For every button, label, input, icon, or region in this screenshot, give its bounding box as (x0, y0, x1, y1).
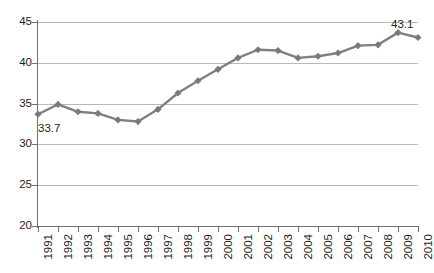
x-tick-label-2010: 2010 (423, 234, 434, 260)
x-tick-label-1994: 1994 (103, 234, 115, 260)
plot-area (38, 22, 418, 226)
x-tick-label-1992: 1992 (63, 234, 75, 260)
x-tick-label-2004: 2004 (303, 234, 315, 260)
x-tick-mark (358, 227, 359, 232)
x-tick-label-2008: 2008 (383, 234, 395, 260)
y-tick-label: 40 (0, 57, 32, 69)
x-tick-mark (298, 227, 299, 232)
y-tick-label: 25 (0, 179, 32, 191)
y-axis: 202530354045 (0, 0, 36, 273)
x-tick-mark (198, 227, 199, 232)
x-tick-label-2001: 2001 (243, 234, 255, 260)
x-tick-label-2005: 2005 (323, 234, 335, 260)
y-tick-label: 20 (0, 220, 32, 232)
x-tick-mark (118, 227, 119, 232)
x-tick-label-1998: 1998 (183, 234, 195, 260)
x-tick-label-1993: 1993 (83, 234, 95, 260)
x-tick-mark (58, 227, 59, 232)
x-tick-label-1997: 1997 (163, 234, 175, 260)
x-tick-label-1995: 1995 (123, 234, 135, 260)
x-tick-label-2000: 2000 (223, 234, 235, 260)
x-tick-mark (238, 227, 239, 232)
x-tick-mark (218, 227, 219, 232)
x-tick-label-2007: 2007 (363, 234, 375, 260)
x-tick-label-2002: 2002 (263, 234, 275, 260)
x-tick-label-1996: 1996 (143, 234, 155, 260)
x-tick-mark (178, 227, 179, 232)
x-tick-mark (38, 227, 39, 232)
line-chart: 202530354045 199119921993199419951996199… (0, 0, 434, 273)
x-tick-label-1999: 1999 (203, 234, 215, 260)
x-tick-label-2006: 2006 (343, 234, 355, 260)
y-tick-label: 30 (0, 138, 32, 150)
gridline-25 (38, 185, 418, 186)
gridline-35 (38, 104, 418, 105)
x-tick-mark (158, 227, 159, 232)
x-tick-mark (258, 227, 259, 232)
x-tick-mark (338, 227, 339, 232)
x-tick-label-1991: 1991 (43, 234, 55, 260)
x-tick-mark (378, 227, 379, 232)
x-tick-mark (278, 227, 279, 232)
x-tick-mark (78, 227, 79, 232)
x-tick-mark (418, 227, 419, 232)
x-axis-line (37, 226, 419, 227)
x-tick-mark (98, 227, 99, 232)
x-tick-label-2009: 2009 (403, 234, 415, 260)
gridline-30 (38, 144, 418, 145)
y-tick-label: 35 (0, 98, 32, 110)
y-tick-label: 45 (0, 16, 32, 28)
x-tick-mark (398, 227, 399, 232)
x-tick-mark (138, 227, 139, 232)
gridline-40 (38, 63, 418, 64)
gridline-45 (38, 22, 418, 23)
x-tick-label-2003: 2003 (283, 234, 295, 260)
data-label-1991: 33.7 (38, 123, 60, 135)
data-label-2010: 43.1 (391, 19, 413, 31)
x-tick-mark (318, 227, 319, 232)
